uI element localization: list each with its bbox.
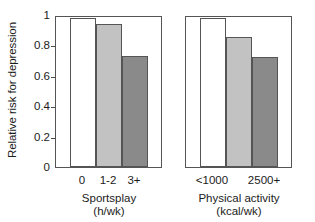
- bar-sportsplay-0: [70, 18, 96, 167]
- y-tick-label: 0: [24, 162, 50, 174]
- y-tick-label: 0.8: [24, 41, 50, 53]
- bar-activity-2500: [252, 57, 278, 167]
- x-tick-label-sportsplay-0: 0: [79, 175, 85, 187]
- y-tick-label: 0.2: [24, 132, 50, 144]
- y-tick-label: 0.4: [24, 101, 50, 113]
- x-tick-label-activity-2500: 2500+: [248, 175, 280, 187]
- bar-sportsplay-1-2: [96, 24, 122, 167]
- physical-activity-panel: [185, 16, 292, 168]
- physical-activity-plot-area: [186, 17, 291, 167]
- y-axis-tick-labels: 1 0.8 0.6 0.4 0.2 0: [24, 0, 50, 222]
- sportsplay-caption: Sportsplay (h/wk): [82, 192, 136, 218]
- physical-activity-caption-line2: (kcal/wk): [198, 205, 279, 218]
- sportsplay-plot-area: [56, 17, 161, 167]
- y-axis-title: Relative risk for depression: [6, 15, 18, 165]
- physical-activity-caption: Physical activity (kcal/wk): [198, 192, 279, 218]
- x-tick-label-sportsplay-1-2: 1-2: [100, 175, 117, 187]
- x-tick-label-sportsplay-3: 3+: [127, 175, 140, 187]
- physical-activity-caption-line1: Physical activity: [198, 192, 279, 205]
- x-tick-label-activity-lt1000: <1000: [196, 175, 228, 187]
- y-tick-label: 1: [24, 10, 50, 22]
- bar-sportsplay-3: [122, 56, 148, 167]
- relative-risk-bar-chart: Relative risk for depression 1 0.8 0.6 0…: [0, 0, 315, 222]
- bar-activity-mid: [226, 37, 252, 167]
- sportsplay-panel: [55, 16, 162, 168]
- bar-activity-lt1000: [200, 18, 226, 167]
- y-tick-label: 0.6: [24, 71, 50, 83]
- sportsplay-caption-line1: Sportsplay: [82, 192, 136, 205]
- sportsplay-caption-line2: (h/wk): [82, 205, 136, 218]
